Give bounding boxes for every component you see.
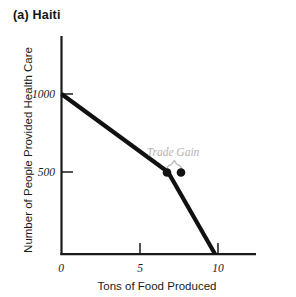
haiti-ppf-chart: 1000 500 0 5 10 Tons of Food Produced Nu… <box>0 0 296 297</box>
x-tick-label-0: 0 <box>58 262 64 274</box>
x-tick-group <box>140 243 218 254</box>
y-tick-group <box>62 94 74 172</box>
production-point-marker <box>163 168 172 177</box>
x-tick-label-10: 10 <box>212 262 224 274</box>
consumption-point-marker <box>177 168 186 177</box>
ppf-line <box>62 94 216 254</box>
y-axis-title: Number of People Provided Health Care <box>22 47 34 253</box>
x-tick-label-5: 5 <box>137 262 143 274</box>
chart-container: (a) Haiti 1000 500 0 5 10 Tons of Food P… <box>0 0 296 297</box>
x-axis-title: Tons of Food Produced <box>98 280 217 292</box>
trade-gain-label: Trade Gain <box>147 146 200 158</box>
y-tick-label-500: 500 <box>38 166 56 178</box>
y-tick-label-1000: 1000 <box>32 88 55 100</box>
